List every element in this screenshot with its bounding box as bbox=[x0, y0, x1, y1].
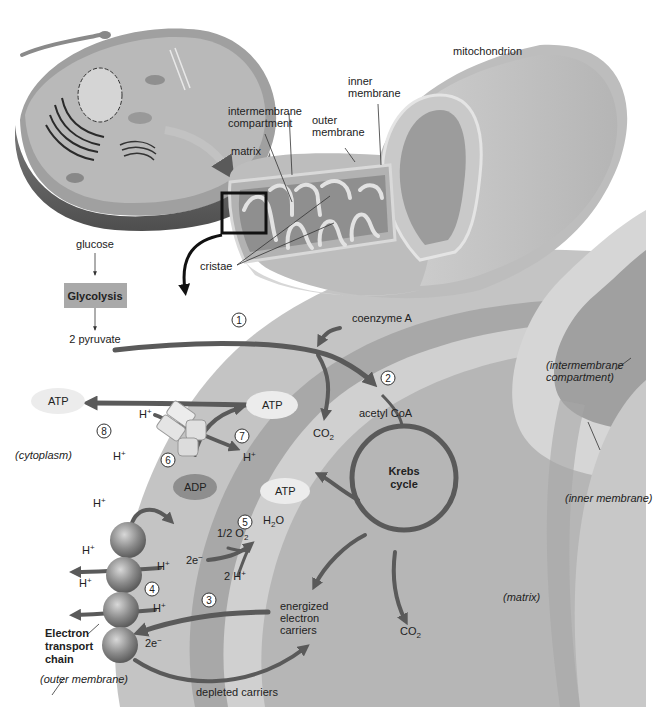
step-number: 5 bbox=[242, 517, 248, 528]
step-number: 3 bbox=[206, 595, 212, 606]
step-4: 4 bbox=[145, 582, 159, 596]
h-plus-band-4: H+ bbox=[79, 576, 92, 589]
plus-sup: + bbox=[121, 449, 126, 458]
label-atp-cytoplasm: ATP bbox=[48, 395, 69, 407]
two-h-text: 2 H bbox=[224, 570, 241, 582]
h-plus-band-2: H+ bbox=[93, 496, 106, 509]
label-carriers: carriers bbox=[280, 624, 317, 636]
step-number: 1 bbox=[236, 315, 242, 326]
co2-subscript: 2 bbox=[417, 631, 422, 640]
label-intermembrane-line2: compartment bbox=[228, 117, 292, 129]
label-coenzyme-a: coenzyme A bbox=[352, 312, 413, 324]
label-cycle: cycle bbox=[390, 478, 418, 490]
mitochondrion-respiration-diagram: mitochondrion inner membrane outer membr… bbox=[0, 0, 656, 720]
label-intermembrane-region-line2: compartment) bbox=[546, 371, 614, 383]
plus-sup: + bbox=[241, 569, 246, 578]
plus-sup: + bbox=[251, 450, 256, 459]
label-glycolysis: Glycolysis bbox=[67, 290, 122, 302]
label-etc-line1: Electron bbox=[45, 627, 89, 639]
plus-sup: + bbox=[101, 496, 106, 505]
step-number: 8 bbox=[101, 426, 107, 437]
step-number: 2 bbox=[385, 373, 391, 384]
label-cytoplasm: (cytoplasm) bbox=[15, 449, 72, 461]
label-inner-membrane-region: (inner membrane) bbox=[565, 492, 653, 504]
label-2-pyruvate: 2 pyruvate bbox=[69, 333, 120, 345]
label-glucose: glucose bbox=[76, 238, 114, 250]
step-number: 6 bbox=[165, 455, 171, 466]
label-etc-line3: chain bbox=[45, 653, 74, 665]
label-cristae: cristae bbox=[200, 260, 232, 272]
step-8: 8 bbox=[97, 424, 111, 438]
label-energized: energized bbox=[280, 600, 328, 612]
label-matrix: matrix bbox=[231, 145, 261, 157]
co2-subscript: 2 bbox=[330, 433, 335, 442]
label-atp-synthase: ATP bbox=[262, 399, 283, 411]
step-2: 2 bbox=[381, 371, 395, 385]
minus-sup: − bbox=[198, 553, 203, 562]
label-intermembrane-region-line1: (intermembrane bbox=[546, 359, 624, 371]
h-plus-band-1: H+ bbox=[113, 449, 126, 462]
label-krebs: Krebs bbox=[388, 465, 419, 477]
h-text: H bbox=[157, 560, 165, 572]
plus-sup: + bbox=[165, 559, 170, 568]
two-e-text: 2e bbox=[186, 554, 198, 566]
step-number: 7 bbox=[239, 431, 245, 442]
label-electron: electron bbox=[280, 612, 319, 624]
h-text: H bbox=[153, 602, 161, 614]
h2o-h: H bbox=[263, 514, 271, 526]
h-text: H bbox=[139, 408, 147, 420]
h-plus-band-3: H+ bbox=[82, 543, 95, 556]
two-e-text: 2e bbox=[145, 637, 157, 649]
label-mitochondrion: mitochondrion bbox=[453, 45, 522, 57]
plus-sup: + bbox=[90, 543, 95, 552]
step-5: 5 bbox=[238, 515, 252, 529]
co2-text: CO bbox=[400, 625, 417, 637]
h-text: H bbox=[79, 577, 87, 589]
label-etc-line2: transport bbox=[45, 640, 94, 652]
co2-text: CO bbox=[313, 427, 330, 439]
label-inner-membrane-line1: inner bbox=[348, 75, 373, 87]
label-atp-krebs: ATP bbox=[275, 485, 296, 497]
h2o-o: O bbox=[275, 514, 284, 526]
o2-subscript: 2 bbox=[244, 533, 249, 542]
label-adp: ADP bbox=[184, 481, 207, 493]
plus-sup: + bbox=[161, 601, 166, 610]
h-text: H bbox=[243, 451, 251, 463]
step-3: 3 bbox=[202, 593, 216, 607]
plus-sup: + bbox=[147, 407, 152, 416]
step-1: 1 bbox=[232, 313, 246, 327]
label-depleted-carriers: depleted carriers bbox=[196, 686, 278, 698]
step-6: 6 bbox=[161, 453, 175, 467]
glycolysis-section: glucose Glycolysis 2 pyruvate bbox=[64, 238, 127, 345]
h-text: H bbox=[113, 450, 121, 462]
h-text: H bbox=[82, 544, 90, 556]
minus-sup: − bbox=[157, 636, 162, 645]
label-acetyl-coa: acetyl CoA bbox=[359, 407, 413, 419]
plus-sup: + bbox=[87, 576, 92, 585]
label-outer-membrane-region: (outer membrane) bbox=[40, 673, 128, 685]
h-text: H bbox=[93, 497, 101, 509]
label-matrix-region: (matrix) bbox=[503, 591, 541, 603]
step-number: 4 bbox=[149, 584, 155, 595]
step-7: 7 bbox=[235, 429, 249, 443]
label-outer-membrane-line2: membrane bbox=[312, 126, 365, 138]
half-o2-text: 1/2 O bbox=[217, 527, 244, 539]
h-plus-synthase-in: H+ bbox=[139, 407, 152, 420]
label-intermembrane-line1: intermembrane bbox=[228, 105, 302, 117]
label-outer-membrane-line1: outer bbox=[312, 114, 337, 126]
label-inner-membrane-line2: membrane bbox=[348, 87, 401, 99]
